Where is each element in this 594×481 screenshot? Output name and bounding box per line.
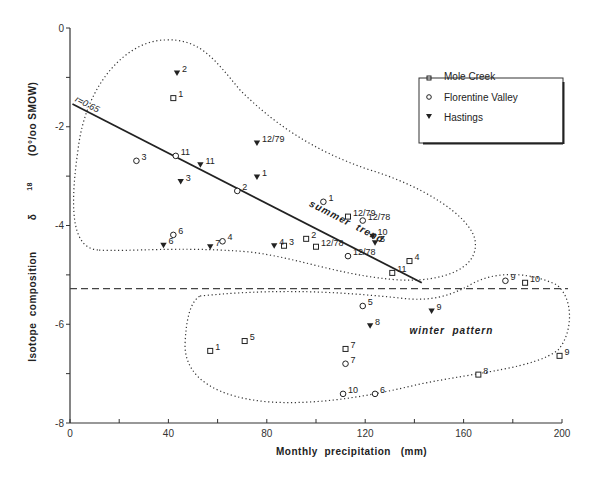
point-label: 2	[242, 182, 247, 192]
florentine-valley-point	[220, 239, 226, 245]
point-label: 3	[186, 173, 191, 183]
point-label: 8	[483, 366, 488, 376]
point-label: 9	[565, 347, 570, 357]
svg-text:Isotope composition δ: Isotope composition δ 18 (O°/oo SMOW)	[23, 65, 38, 385]
hastings-point	[367, 323, 373, 329]
point-label: 6	[178, 226, 183, 236]
y-axis-title-delta: δ	[27, 214, 38, 221]
y-axis-title-sup: 18	[26, 182, 33, 191]
legend-label-florentine-valley: Florentine Valley	[444, 92, 518, 103]
point-label: 1	[262, 168, 267, 178]
x-tick-label: 160	[455, 428, 472, 439]
point-label: 9	[437, 302, 442, 312]
legend-box	[419, 78, 563, 143]
point-label: 12/78	[321, 238, 344, 248]
x-tick-label: 0	[67, 428, 73, 439]
x-axis-title: Monthly precipitation (mm)	[276, 446, 427, 457]
hastings-point	[428, 308, 434, 314]
point-label: 3	[289, 237, 294, 247]
florentine-valley-point	[343, 361, 349, 367]
mole-creek-point	[208, 348, 213, 353]
florentine-valley-point	[234, 188, 240, 194]
point-label: 6	[168, 236, 173, 246]
point-label: 8	[375, 317, 380, 327]
x-tick-label: 80	[261, 428, 273, 439]
point-label: 6	[380, 385, 385, 395]
point-label: 11	[397, 264, 406, 274]
hastings-point	[160, 243, 166, 249]
mole-creek-point	[407, 259, 412, 264]
x-tick-label: 200	[554, 428, 571, 439]
point-label: 12/79	[262, 134, 285, 144]
point-label: 7	[351, 355, 356, 365]
point-label: 10	[348, 385, 358, 395]
y-axis-title: Isotope composition δ 18 (O°/oo SMOW)	[23, 65, 38, 385]
point-label: 5	[250, 332, 255, 342]
florentine-valley-point	[372, 391, 378, 397]
point-label: 4	[228, 232, 233, 242]
point-label: 1	[215, 342, 220, 352]
hastings-point	[207, 244, 213, 250]
y-tick-label: -2	[55, 121, 64, 132]
point-label: 2	[182, 64, 187, 74]
point-label: 1	[178, 89, 183, 99]
mole-creek-point	[304, 236, 309, 241]
y-tick-label: -6	[55, 319, 64, 330]
point-label: 1	[328, 193, 333, 203]
y-tick-label: -8	[55, 418, 64, 429]
legend-label-mole-creek: Mole Creek	[444, 71, 496, 82]
x-tick-label: 120	[357, 428, 374, 439]
point-label: 7	[351, 340, 356, 350]
point-label: 12/78	[368, 212, 391, 222]
y-axis-title-main: Isotope composition	[27, 251, 38, 362]
y-tick-label: -4	[55, 220, 64, 231]
hastings-point	[178, 179, 184, 185]
isotope-precipitation-chart: 0-2-4-6-804080120160200 r=0.65 112/79231…	[0, 0, 594, 481]
legend: Mole Creek Florentine Valley Hastings	[419, 71, 564, 144]
legend-label-hastings: Hastings	[444, 112, 483, 123]
mole-creek-point	[557, 353, 562, 358]
florentine-valley-point	[134, 158, 140, 164]
florentine-valley-point	[503, 278, 509, 284]
point-label: 3	[141, 152, 146, 162]
point-label: 10	[530, 274, 540, 284]
mole-creek-point	[390, 270, 395, 275]
mole-creek-point	[523, 280, 528, 285]
y-tick-label: 0	[58, 23, 64, 34]
florentine-valley-point	[345, 253, 351, 259]
point-label: 5	[368, 297, 373, 307]
florentine-valley-point	[360, 303, 366, 309]
mole-creek-point	[476, 372, 481, 377]
point-label: 7	[215, 238, 220, 248]
point-label: 4	[279, 237, 284, 247]
hastings-point	[271, 243, 277, 249]
hastings-point	[197, 162, 203, 168]
hastings-point	[254, 141, 260, 147]
mole-creek-point	[343, 346, 348, 351]
point-label: 12/78	[353, 247, 376, 257]
y-axis-title-unit: (O°/oo SMOW)	[27, 82, 38, 156]
mole-creek-point	[242, 339, 247, 344]
winter-pattern-annotation: winter pattern	[409, 325, 493, 336]
point-label: 4	[414, 252, 419, 262]
florentine-valley-point	[340, 391, 346, 397]
point-label: 11	[205, 156, 214, 166]
hastings-point	[254, 175, 260, 181]
mole-creek-point	[314, 244, 319, 249]
x-tick-label: 40	[163, 428, 175, 439]
hastings-point	[174, 70, 180, 76]
point-label: 11	[181, 147, 190, 157]
mole-creek-point	[171, 96, 176, 101]
point-label: 2	[311, 230, 316, 240]
florentine-valley-point	[173, 153, 179, 159]
point-label: 9	[510, 272, 515, 282]
